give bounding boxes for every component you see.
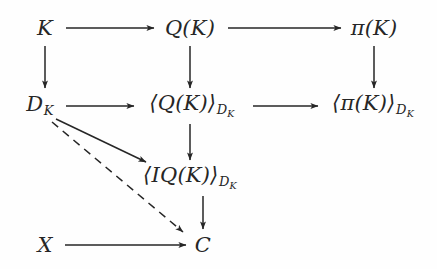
node-pik-dk-sub-d: D (396, 102, 407, 117)
node-iqk-dk-sub-k: K (230, 180, 237, 191)
node-dk-base: D (26, 92, 43, 116)
node-pik: π(K) (351, 18, 398, 39)
node-pik-label: π(K) (351, 16, 398, 40)
node-qk-dk: ⟨Q(K)⟩DK (149, 93, 234, 119)
node-x-label: X (37, 233, 52, 257)
node-pik-dk-base: ⟨π(K)⟩ (332, 91, 395, 115)
node-iqk-dk-base: ⟨IQ(K)⟩ (143, 163, 218, 187)
diagram-arrow-layer (0, 0, 437, 269)
node-qk-dk-sub-k: K (227, 108, 234, 119)
commutative-diagram: K Q(K) π(K) DK ⟨Q(K)⟩DK ⟨π(K)⟩DK ⟨IQ(K)⟩… (0, 0, 437, 269)
node-pik-dk-subscript: DK (396, 102, 414, 117)
node-qk: Q(K) (165, 18, 215, 39)
node-qk-dk-subscript: DK (216, 102, 234, 117)
node-x: X (37, 235, 52, 256)
node-qk-label: Q(K) (165, 16, 215, 40)
node-qk-dk-sub-d: D (217, 102, 228, 117)
node-iqk-dk-sub-d: D (219, 174, 230, 189)
node-iqk-dk: ⟨IQ(K)⟩DK (143, 165, 237, 191)
node-dk: DK (26, 94, 53, 117)
node-pik-dk: ⟨π(K)⟩DK (332, 93, 414, 119)
node-k-label: K (37, 16, 53, 40)
node-c-label: C (195, 233, 211, 257)
node-pik-dk-sub-k: K (407, 108, 414, 119)
node-k: K (37, 18, 53, 39)
arrow-dk-to-iqk-dk (56, 119, 146, 162)
node-iqk-dk-subscript: DK (218, 174, 236, 189)
node-c: C (195, 235, 211, 256)
node-qk-dk-base: ⟨Q(K)⟩ (149, 91, 216, 115)
node-dk-subscript: K (43, 104, 53, 119)
